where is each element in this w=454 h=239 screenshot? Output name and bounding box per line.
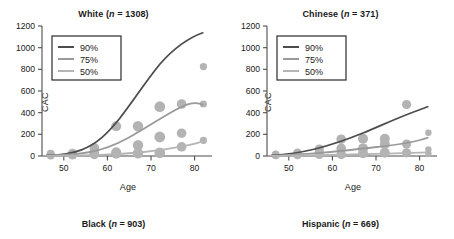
- plot-area-white: CAC 1200 1000 800 600 400: [42, 26, 214, 166]
- svg-text:0: 0: [30, 151, 35, 161]
- panel-chinese: Chinese (n = 371) CAC 1200 1000 800 600 …: [227, 0, 454, 200]
- svg-text:400: 400: [21, 108, 36, 118]
- panel-title-hispanic-group: Hispanic: [302, 219, 340, 229]
- svg-text:70: 70: [371, 163, 381, 173]
- svg-text:800: 800: [246, 64, 261, 74]
- svg-text:600: 600: [246, 86, 261, 96]
- legend-chinese: 90% 75% 50%: [277, 36, 346, 80]
- panel-title-hispanic: Hispanic (n = 669): [227, 219, 454, 229]
- svg-text:70: 70: [146, 163, 156, 173]
- svg-text:1000: 1000: [241, 43, 260, 53]
- svg-text:200: 200: [21, 129, 36, 139]
- panel-title-chinese-n-value: = 371): [350, 9, 379, 19]
- panel-title-white-group: White: [78, 9, 103, 19]
- svg-text:400: 400: [246, 108, 261, 118]
- svg-text:50: 50: [59, 163, 69, 173]
- legend-label-50-white: 50%: [80, 67, 98, 77]
- panel-title-black-group: Black: [82, 219, 106, 229]
- y-ticks-white: 1200 1000 800 600 400 200 0: [16, 21, 42, 161]
- svg-text:0: 0: [255, 151, 260, 161]
- panel-title-chinese-group: Chinese: [302, 9, 338, 19]
- figure-cac-by-age-and-ethnicity: White (n = 1308) CAC 1200 1000 800 600: [0, 0, 454, 239]
- legend-label-75-chinese: 75%: [305, 55, 323, 65]
- svg-text:1200: 1200: [241, 21, 260, 31]
- panel-title-hispanic-n-value: = 669): [351, 219, 379, 229]
- panel-title-chinese: Chinese (n = 371): [227, 9, 454, 19]
- svg-text:1200: 1200: [16, 21, 35, 31]
- x-ticks-chinese: 50 60 70 80: [284, 156, 425, 173]
- plot-svg-chinese: 1200 1000 800 600 400 200 0 50: [267, 26, 439, 168]
- legend-white: 90% 75% 50%: [52, 36, 121, 80]
- legend-label-50-chinese: 50%: [305, 67, 323, 77]
- svg-text:200: 200: [246, 129, 261, 139]
- y-ticks-chinese: 1200 1000 800 600 400 200 0: [241, 21, 267, 161]
- panel-title-white-n-value: = 1308): [115, 9, 149, 19]
- legend-label-90-white: 90%: [80, 43, 98, 53]
- panel-title-white: White (n = 1308): [0, 9, 227, 19]
- svg-text:1000: 1000: [16, 43, 35, 53]
- panel-title-black-n-value: = 903): [117, 219, 145, 229]
- panel-title-black: Black (n = 903): [0, 219, 227, 229]
- x-axis-label-chinese: Age: [267, 182, 439, 192]
- svg-text:50: 50: [284, 163, 294, 173]
- svg-text:600: 600: [21, 86, 36, 96]
- legend-label-75-white: 75%: [80, 55, 98, 65]
- plot-area-chinese: CAC 1200 1000 800 600 400 200: [267, 26, 439, 166]
- plot-svg-white: 1200 1000 800 600 400 200 0: [42, 26, 214, 168]
- svg-text:60: 60: [328, 163, 338, 173]
- x-ticks-white: 50 60 70 80: [59, 156, 200, 173]
- panel-white: White (n = 1308) CAC 1200 1000 800 600: [0, 0, 227, 200]
- svg-text:60: 60: [103, 163, 113, 173]
- svg-text:80: 80: [415, 163, 425, 173]
- svg-text:80: 80: [190, 163, 200, 173]
- svg-text:800: 800: [21, 64, 36, 74]
- legend-label-90-chinese: 90%: [305, 43, 323, 53]
- x-axis-label-white: Age: [42, 182, 214, 192]
